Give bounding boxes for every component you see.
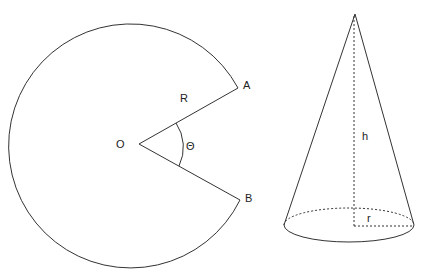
cone-base-front <box>284 225 414 242</box>
radius-label: R <box>180 92 188 104</box>
angle-label: Θ <box>186 140 195 152</box>
cone-radius-label: r <box>367 212 371 224</box>
cone-right-edge <box>355 14 414 225</box>
height-label: h <box>362 130 368 142</box>
angle-arc <box>176 123 183 166</box>
diagram-canvas: O A B R Θ h r <box>0 0 426 276</box>
point-b-label: B <box>245 192 252 204</box>
cone <box>284 14 414 242</box>
center-label: O <box>116 138 125 150</box>
cone-base-back <box>284 208 414 225</box>
cone-left-edge <box>284 14 355 225</box>
point-a-label: A <box>243 79 251 91</box>
